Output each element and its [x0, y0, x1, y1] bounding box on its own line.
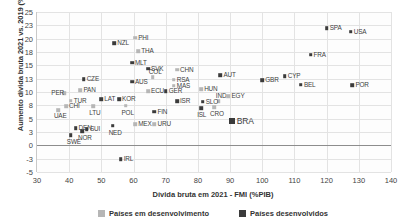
legend-label: Países em desenvolvimento — [109, 209, 209, 218]
data-point-label: POL — [122, 109, 134, 116]
data-point-label: UAE — [54, 112, 67, 119]
y-axis-tick-label: 18 — [25, 48, 33, 57]
data-point-label: AUS — [135, 78, 148, 85]
data-point-label: ISR — [180, 97, 190, 104]
data-point — [299, 83, 303, 87]
data-point-label: SVK — [151, 65, 163, 72]
scatter-chart: Aumento dívida bruta 2021 vs. 2019 (%PIB… — [0, 0, 398, 224]
data-point — [351, 83, 355, 87]
data-point-label: PHI — [138, 34, 148, 41]
data-point-label: BRA — [237, 116, 254, 126]
gridline-vertical — [391, 12, 392, 172]
data-point-label: THA — [141, 47, 153, 54]
x-axis-tick-label: 90 — [226, 176, 234, 185]
data-point — [92, 105, 96, 109]
data-point-label: PER — [51, 89, 64, 96]
data-point — [229, 118, 235, 124]
legend-entry[interactable]: Países em desenvolvimento — [98, 209, 209, 218]
data-point-label: LTU — [89, 109, 100, 116]
x-axis-tick-label: 140 — [385, 176, 398, 185]
gridline-vertical — [262, 12, 263, 172]
y-axis-tick-label: 20 — [25, 34, 33, 43]
data-point-label: IRL — [124, 155, 134, 162]
data-point-label: SWE — [67, 138, 81, 145]
data-point-label: ECU — [151, 87, 164, 94]
data-point-label: PAN — [83, 86, 95, 93]
data-point-label: ISL — [197, 111, 206, 118]
legend-entry[interactable]: Países desenvolvidos — [239, 209, 328, 218]
data-point — [227, 94, 231, 98]
data-point — [112, 41, 116, 45]
x-axis-tick-label: 70 — [162, 176, 170, 185]
plot-area: 252320181513108530-3-5304050607080901001… — [36, 12, 391, 172]
y-axis-tick-label: 3 — [29, 128, 33, 137]
gridline-horizontal — [37, 119, 391, 120]
data-point-label: AUT — [223, 71, 235, 78]
data-point — [133, 122, 137, 126]
y-axis-title: Aumento dívida bruta 2021 vs. 2019 (%PIB… — [16, 0, 25, 137]
data-point — [309, 53, 313, 57]
data-point — [124, 104, 128, 108]
data-point — [153, 110, 157, 114]
data-point — [349, 30, 353, 34]
x-axis-tick-label: 120 — [320, 176, 333, 185]
gridline-horizontal — [37, 172, 391, 173]
data-point — [164, 90, 168, 94]
gridline-vertical — [69, 12, 70, 172]
data-point — [199, 106, 203, 110]
data-point-label: MLT — [135, 59, 147, 66]
data-point — [201, 100, 205, 104]
x-axis-tick-label: 30 — [33, 176, 41, 185]
data-point — [146, 90, 150, 94]
data-point — [146, 67, 150, 71]
data-point — [260, 78, 264, 82]
data-point-label: CZE — [87, 75, 99, 82]
data-point — [111, 124, 115, 128]
data-point — [119, 157, 123, 161]
data-point — [153, 122, 157, 126]
y-axis-tick-label: 25 — [25, 8, 33, 17]
legend-swatch-icon — [239, 210, 246, 217]
data-point — [137, 50, 141, 54]
x-axis-tick-label: 40 — [65, 176, 73, 185]
x-axis-title: Dívida bruta em 2021 - FMI (%PIB) — [36, 190, 390, 199]
gridline-horizontal — [37, 52, 391, 53]
data-point — [175, 99, 179, 103]
data-point — [130, 61, 134, 65]
gridline-vertical — [359, 12, 360, 172]
data-point — [219, 73, 223, 77]
data-point — [117, 98, 121, 102]
gridline-vertical — [327, 12, 328, 172]
gridline-vertical — [101, 12, 102, 172]
data-point — [199, 88, 203, 92]
gridline-horizontal — [37, 65, 391, 66]
data-point — [175, 68, 179, 72]
data-point-label: GER — [169, 87, 182, 94]
data-point — [74, 126, 78, 130]
x-axis-tick-label: 50 — [97, 176, 105, 185]
y-axis-tick-label: 0 — [29, 141, 33, 150]
chart-legend: Países em desenvolvimentoPaíses desenvol… — [36, 209, 390, 218]
data-point-label: CHN — [180, 66, 193, 73]
data-point-label: SPA — [330, 24, 342, 31]
data-point — [151, 75, 155, 79]
legend-label: Países desenvolvidos — [250, 209, 328, 218]
y-axis-tick-label: 10 — [25, 88, 33, 97]
data-point — [79, 89, 83, 93]
data-point — [133, 36, 137, 40]
data-point — [212, 105, 216, 109]
data-point-label: CHI — [69, 102, 80, 109]
data-point — [283, 74, 287, 78]
data-point-label: SLO — [206, 98, 218, 105]
gridline-horizontal — [37, 39, 391, 40]
data-point-label: EGY — [231, 92, 244, 99]
data-point-label: USA — [354, 28, 367, 35]
y-axis-tick-label: 13 — [25, 74, 33, 83]
gridline-horizontal — [37, 159, 391, 160]
data-point-label: FIN — [157, 108, 167, 115]
y-axis-tick-label: -3 — [26, 154, 33, 163]
data-point-label: POR — [355, 81, 368, 88]
x-axis-tick-label: 60 — [129, 176, 137, 185]
y-axis-tick-label: 23 — [25, 21, 33, 30]
gridline-vertical — [294, 12, 295, 172]
